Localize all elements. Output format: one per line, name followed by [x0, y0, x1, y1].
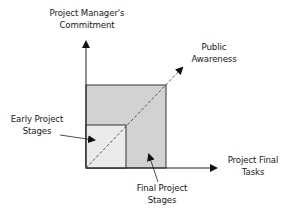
- early-label-line2: Stages: [4, 125, 70, 137]
- x-axis-label-line1: Project Final: [222, 154, 284, 166]
- final-label-line2: Stages: [130, 194, 194, 206]
- y-axis-label-line2: Commitment: [40, 19, 134, 31]
- y-axis-label: Project Manager's Commitment: [40, 7, 134, 31]
- final-stages-label: Final Project Stages: [130, 182, 194, 206]
- early-stages-label: Early Project Stages: [4, 113, 70, 137]
- x-axis-label: Project Final Tasks: [222, 154, 284, 178]
- y-axis-label-line1: Project Manager's: [40, 7, 134, 19]
- early-stages-region: [86, 125, 126, 168]
- public-awareness-label: Public Awareness: [184, 41, 244, 65]
- x-axis-label-line2: Tasks: [222, 166, 284, 178]
- diagonal-label-line2: Awareness: [184, 53, 244, 65]
- diagonal-label-line1: Public: [184, 41, 244, 53]
- final-label-line1: Final Project: [130, 182, 194, 194]
- early-label-line1: Early Project: [4, 113, 70, 125]
